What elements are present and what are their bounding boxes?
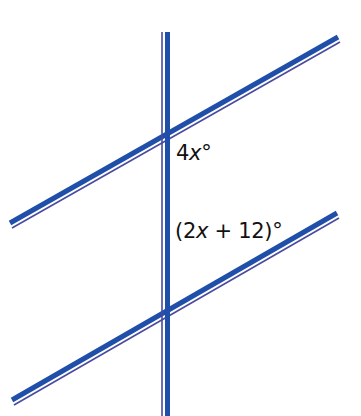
- degree-symbol: °: [201, 141, 211, 165]
- diagram-canvas: [0, 0, 361, 416]
- angle-label-upper: 4x°: [176, 141, 211, 165]
- angle-variable: x: [189, 141, 201, 165]
- angle-coefficient: 4: [176, 141, 189, 165]
- vertical-transversal-line: [162, 32, 168, 416]
- angle-expression-suffix: + 12)°: [208, 219, 282, 243]
- upper-parallel-line: [10, 37, 340, 228]
- angle-variable: x: [196, 219, 208, 243]
- angle-expression-prefix: (2: [175, 219, 196, 243]
- angle-label-lower: (2x + 12)°: [175, 219, 282, 243]
